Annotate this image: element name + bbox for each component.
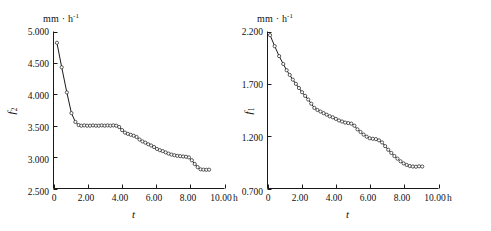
data-point-marker — [408, 164, 411, 167]
data-point-marker — [380, 141, 383, 144]
data-point-marker — [294, 82, 297, 85]
data-point-marker — [368, 137, 371, 140]
data-point-marker — [377, 139, 380, 142]
data-point-marker — [344, 121, 347, 124]
data-point-marker — [118, 125, 121, 128]
chart-svg-left — [0, 0, 245, 231]
data-point-marker — [402, 162, 405, 165]
chart-panel-left: mm · h-1 f2 t 5.000 4.500 4.000 3.500 3.… — [0, 0, 245, 231]
data-point-marker — [208, 168, 211, 171]
data-point-marker — [353, 124, 356, 127]
data-point-marker — [74, 120, 77, 123]
data-line — [270, 35, 422, 167]
chart-panel-right: mm · h-1 f1 t 2.200 1.700 1.200 0.700 0 … — [245, 0, 491, 231]
data-point-marker — [268, 34, 271, 37]
data-point-marker — [411, 165, 414, 168]
data-point-marker — [340, 120, 343, 123]
data-point-marker — [384, 145, 387, 148]
data-point-marker — [135, 135, 138, 138]
data-point-marker — [297, 86, 300, 89]
data-point-marker — [310, 102, 313, 105]
data-point-marker — [273, 45, 276, 48]
data-point-marker — [387, 148, 390, 151]
data-point-marker — [307, 98, 310, 101]
data-point-marker — [316, 108, 319, 111]
data-point-marker — [325, 113, 328, 116]
data-point-marker — [362, 133, 365, 136]
data-point-marker — [396, 157, 399, 160]
data-point-marker — [313, 106, 316, 109]
data-point-marker — [405, 163, 408, 166]
data-point-marker — [278, 55, 281, 58]
figure-container: mm · h-1 f2 t 5.000 4.500 4.000 3.500 3.… — [0, 0, 491, 231]
tick-marks-left — [54, 33, 226, 190]
data-point-marker — [374, 138, 377, 141]
data-point-marker — [421, 165, 424, 168]
data-point-marker — [300, 91, 303, 94]
data-series-left — [55, 41, 210, 171]
data-point-marker — [288, 73, 291, 76]
data-point-marker — [347, 121, 350, 124]
data-point-marker — [322, 112, 325, 115]
data-point-marker — [350, 122, 353, 125]
data-point-marker — [70, 112, 73, 115]
data-point-marker — [414, 165, 417, 168]
data-point-marker — [359, 130, 362, 133]
axes-left — [54, 32, 225, 189]
data-point-marker — [60, 66, 63, 69]
chart-svg-right — [245, 0, 491, 231]
data-point-marker — [399, 160, 402, 163]
data-point-marker — [417, 165, 420, 168]
data-point-marker — [193, 162, 196, 165]
data-point-marker — [328, 115, 331, 118]
data-point-marker — [390, 151, 393, 154]
data-point-marker — [291, 78, 294, 81]
data-point-marker — [65, 91, 68, 94]
data-point-marker — [190, 159, 193, 162]
data-point-marker — [371, 137, 374, 140]
data-point-marker — [285, 69, 288, 72]
data-point-marker — [337, 119, 340, 122]
data-point-marker — [187, 156, 190, 159]
data-point-marker — [356, 128, 359, 131]
data-point-marker — [365, 135, 368, 138]
data-point-marker — [393, 154, 396, 157]
data-point-marker — [304, 94, 307, 97]
data-series-right — [268, 34, 423, 169]
data-point-marker — [334, 117, 337, 120]
data-point-marker — [55, 41, 58, 44]
data-point-marker — [196, 166, 199, 169]
data-point-marker — [120, 129, 123, 132]
data-point-marker — [282, 62, 285, 65]
data-point-marker — [331, 116, 334, 119]
data-line — [57, 43, 209, 170]
data-point-marker — [319, 110, 322, 113]
